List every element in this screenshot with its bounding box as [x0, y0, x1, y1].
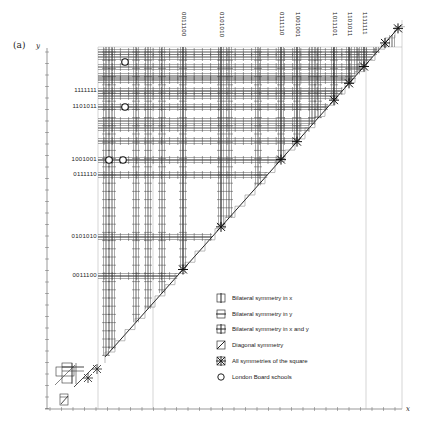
- legend-item-diagonal: Diagonal symmetry: [215, 337, 309, 353]
- legend-item-bilateral-y: Bilateral symmetry in y: [215, 306, 309, 322]
- legend-item-bilateral-x: Bilateral symmetry in x: [215, 290, 309, 306]
- all-symmetries-icon: [215, 356, 227, 366]
- legend-label: London Board schools: [232, 374, 292, 380]
- bilateral-y-icon: [215, 309, 227, 319]
- bilateral-x-icon: [215, 293, 227, 303]
- row-code-label: 1001001: [47, 156, 97, 162]
- diagonal-icon: [215, 340, 227, 350]
- row-code-label: 0111110: [47, 171, 97, 177]
- row-code-label: 0101010: [47, 233, 97, 239]
- column-code-label: 1011101: [332, 12, 338, 37]
- column-code-label: 1101011: [347, 12, 353, 37]
- legend-label: Bilateral symmetry in y: [232, 311, 292, 317]
- legend-label: Bilateral symmetry in x: [232, 295, 292, 301]
- row-code-label: 1101011: [47, 103, 97, 109]
- column-code-label: 1001001: [295, 12, 301, 37]
- horizontal-symmetry-bands: [98, 48, 377, 280]
- legend-item-bilateral-xy: Bilateral symmetry in x and y: [215, 322, 309, 338]
- legend-item-all-symmetries: All symmetries of the square: [215, 353, 309, 369]
- legend: Bilateral symmetry in x Bilateral symmet…: [215, 290, 309, 385]
- legend-label: All symmetries of the square: [232, 358, 308, 364]
- row-code-label: 1111111: [47, 87, 97, 93]
- legend-label: Diagonal symmetry: [232, 342, 283, 348]
- column-code-label: 0101010: [219, 12, 225, 37]
- column-code-label: 1111111: [362, 12, 368, 35]
- london-board-school-markers: [106, 59, 129, 164]
- circle-icon: [215, 372, 227, 382]
- column-code-label: 0011100: [181, 12, 187, 37]
- small-inset: [55, 363, 96, 405]
- inset-star-markers: [83, 364, 102, 383]
- row-code-label: 0011100: [47, 272, 97, 278]
- column-code-label: 0111110: [279, 12, 285, 36]
- bilateral-xy-icon: [215, 324, 227, 334]
- legend-item-london-board-schools: London Board schools: [215, 369, 309, 385]
- legend-label: Bilateral symmetry in x and y: [232, 326, 309, 332]
